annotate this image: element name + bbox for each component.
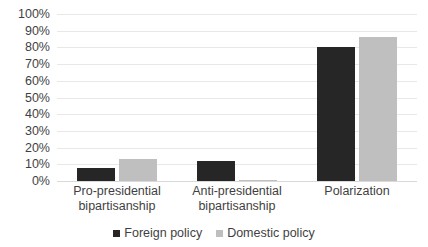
y-axis-tick-label: 30%	[25, 125, 50, 138]
x-axis-category-labels: Pro-presidentialbipartisanshipAnti-presi…	[57, 184, 417, 214]
category-label-line: Polarization	[297, 184, 417, 199]
bar[interactable]	[239, 180, 277, 181]
x-axis-category-label: Polarization	[297, 184, 417, 214]
legend-item[interactable]: Foreign policy	[113, 226, 202, 240]
category-label-line: Pro-presidential	[57, 184, 177, 199]
legend-item[interactable]: Domestic policy	[216, 226, 315, 240]
y-axis-tick-label: 40%	[25, 108, 50, 121]
y-axis-tick-label: 60%	[25, 75, 50, 88]
category-label-line: Anti-presidential	[177, 184, 297, 199]
y-axis-tick-label: 20%	[25, 141, 50, 154]
legend: Foreign policyDomestic policy	[0, 226, 428, 240]
axis-baseline	[57, 181, 417, 182]
legend-swatch-icon	[216, 230, 223, 237]
bar-group	[57, 14, 177, 181]
y-axis-tick-label: 50%	[25, 91, 50, 104]
y-axis-tick-label: 70%	[25, 58, 50, 71]
bar[interactable]	[317, 47, 355, 181]
y-axis-tick-label: 0%	[32, 175, 50, 188]
bar-groups	[57, 14, 417, 181]
y-axis: 100%90%80%70%60%50%40%30%20%10%0%	[0, 14, 54, 181]
bar-chart: 100%90%80%70%60%50%40%30%20%10%0% Pro-pr…	[0, 0, 428, 247]
bar[interactable]	[359, 37, 397, 181]
x-axis-category-label: Pro-presidentialbipartisanship	[57, 184, 177, 214]
legend-label: Foreign policy	[124, 226, 202, 240]
x-axis-category-label: Anti-presidentialbipartisanship	[177, 184, 297, 214]
bar-group	[177, 14, 297, 181]
bar[interactable]	[197, 161, 235, 181]
bar-group	[297, 14, 417, 181]
category-label-line: bipartisanship	[57, 199, 177, 214]
y-axis-tick-label: 10%	[25, 158, 50, 171]
y-axis-tick-label: 100%	[18, 8, 50, 21]
category-label-line: bipartisanship	[177, 199, 297, 214]
y-axis-tick-label: 80%	[25, 41, 50, 54]
plot-area	[57, 14, 417, 181]
bar[interactable]	[77, 168, 115, 181]
legend-swatch-icon	[113, 230, 120, 237]
legend-label: Domestic policy	[227, 226, 315, 240]
y-axis-tick-label: 90%	[25, 24, 50, 37]
bar[interactable]	[119, 159, 157, 181]
